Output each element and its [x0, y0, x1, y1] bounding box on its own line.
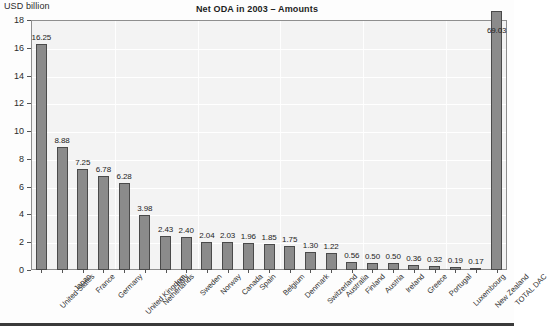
- x-axis-category-label: Norway: [218, 272, 242, 296]
- bar-value-label: 7.25: [75, 158, 90, 167]
- bar-value-label: 3.98: [137, 204, 152, 213]
- y-axis-tick-label: 18: [14, 15, 24, 25]
- y-axis-tick-label: 6: [19, 182, 24, 192]
- x-axis-category-label: Germany: [116, 272, 144, 300]
- bar[interactable]: [491, 20, 502, 270]
- bar-rect: [305, 252, 316, 270]
- bar-overflow-stub: [491, 11, 502, 21]
- y-axis-tick-label: 4: [19, 209, 24, 219]
- bar-value-label: 0.17: [468, 257, 483, 266]
- bar[interactable]: [222, 242, 233, 270]
- bar[interactable]: [388, 263, 399, 270]
- y-axis-tick-label: 14: [14, 71, 24, 81]
- bar[interactable]: [243, 243, 254, 270]
- y-axis-tick-label: 12: [14, 98, 24, 108]
- bar[interactable]: [326, 253, 337, 270]
- bar-value-label: 8.88: [54, 136, 69, 145]
- y-axis-tick-label: 8: [19, 154, 24, 164]
- bar[interactable]: [346, 262, 357, 270]
- bar-rect: [57, 147, 68, 270]
- bar-rect: [201, 242, 212, 270]
- bar[interactable]: [57, 147, 68, 270]
- bar-value-label: 0.19: [448, 256, 463, 265]
- bar[interactable]: [139, 215, 150, 270]
- bar-value-label: 2.43: [158, 225, 173, 234]
- bar-value-label: 0.50: [386, 252, 401, 261]
- y-axis-tick-label: 10: [14, 126, 24, 136]
- bar-value-label: 0.56: [344, 251, 359, 260]
- bar[interactable]: [98, 176, 109, 270]
- x-axis-labels: United StatesJapanFranceGermanyUnited Ki…: [31, 272, 521, 326]
- x-axis-category-label: Austria: [383, 272, 406, 295]
- y-axis-tick-label: 2: [19, 237, 24, 247]
- bar-value-label: 2.04: [199, 231, 214, 240]
- x-axis-category-label: Denmark: [303, 272, 331, 300]
- bar-rect: [98, 176, 109, 270]
- bar-rect: [181, 237, 192, 270]
- bar-rect: [222, 242, 233, 270]
- bar-rect: [160, 236, 171, 270]
- y-axis-tick-label: 0: [19, 265, 24, 275]
- bar[interactable]: [367, 263, 378, 270]
- bar-rect: [139, 215, 150, 270]
- bar[interactable]: [160, 236, 171, 270]
- x-axis-category-label: Sweden: [198, 272, 224, 298]
- bar-rect: [388, 263, 399, 270]
- bar-value-label: 2.03: [220, 231, 235, 240]
- bar-value-label: 0.32: [427, 255, 442, 264]
- bar-value-label: 0.50: [365, 252, 380, 261]
- bar[interactable]: [201, 242, 212, 270]
- bar-value-label: 1.96: [241, 232, 256, 241]
- bar-rect: [36, 44, 47, 270]
- bar-rect: [284, 246, 295, 270]
- bar-rect: [243, 243, 254, 270]
- bar-rect: [77, 169, 88, 270]
- y-axis-tick-label: 16: [14, 43, 24, 53]
- x-axis-category-label: Greece: [425, 272, 449, 296]
- bar-rect: [346, 262, 357, 270]
- x-axis-category-label: France: [94, 272, 117, 295]
- bar-value-label: 1.22: [323, 242, 338, 251]
- bar-rect: [491, 20, 502, 270]
- bar[interactable]: [77, 169, 88, 270]
- bar[interactable]: [119, 183, 130, 270]
- bar-value-label: 2.40: [179, 226, 194, 235]
- x-axis-category-label: Portugal: [447, 272, 473, 298]
- bar-value-label: 6.28: [117, 172, 132, 181]
- bar-value-label: 16.25: [32, 33, 52, 42]
- bar-value-label: 1.30: [303, 241, 318, 250]
- bar[interactable]: [264, 244, 275, 270]
- chart-title: Net ODA in 2003 – Amounts: [0, 4, 514, 14]
- x-axis-category-label: Ireland: [404, 272, 427, 295]
- bar[interactable]: [181, 237, 192, 270]
- bar-rect: [119, 183, 130, 270]
- bar-rect: [326, 253, 337, 270]
- bar-value-label: 1.75: [282, 235, 297, 244]
- bar[interactable]: [305, 252, 316, 270]
- bar-value-label: 0.36: [406, 254, 421, 263]
- bar-rect: [264, 244, 275, 270]
- bar-value-label: 1.85: [261, 233, 276, 242]
- bar-rect: [367, 263, 378, 270]
- bar-series: 16.258.887.256.786.283.982.432.402.042.0…: [31, 20, 507, 270]
- bar[interactable]: [36, 44, 47, 270]
- bar[interactable]: [284, 246, 295, 270]
- bar-value-label: 6.78: [96, 165, 111, 174]
- bar-value-label: 69.03: [487, 26, 507, 35]
- y-axis: 024681012141618: [0, 20, 31, 270]
